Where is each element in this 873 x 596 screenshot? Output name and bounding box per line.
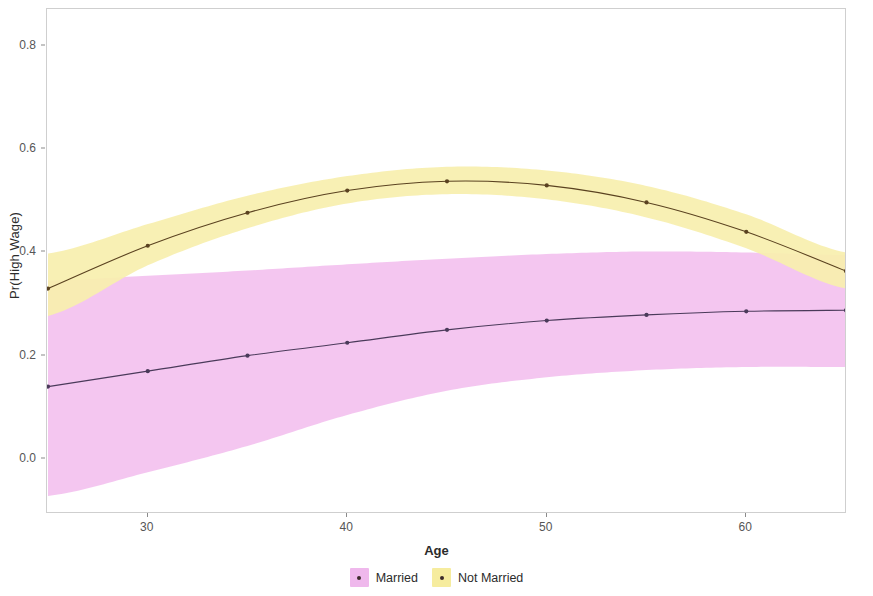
x-tick-label: 30 [140,520,153,534]
chart-figure: Pr(High Wage) 0.00.20.40.60.8 30405060 A… [0,0,873,596]
x-tick-mark [745,513,746,517]
x-tick-mark [147,513,148,517]
legend-item[interactable]: Married [350,568,418,587]
data-point [744,230,748,234]
data-point [245,354,249,358]
y-tick-label: 0.8 [0,38,36,52]
data-point [245,211,249,215]
legend-swatch-icon [432,568,451,587]
data-point [345,341,349,345]
data-point [146,369,150,373]
x-tick-mark [546,513,547,517]
data-point [445,179,449,183]
x-axis-title: Age [0,543,873,558]
legend-item[interactable]: Not Married [432,568,523,587]
y-tick-label: 0.2 [0,348,36,362]
y-tick-label: 0.4 [0,244,36,258]
data-point [744,309,748,313]
confidence-band [48,251,846,496]
y-tick-label: 0.0 [0,451,36,465]
legend-label: Married [376,571,418,585]
data-point [644,313,648,317]
x-tick-label: 50 [539,520,552,534]
y-tick-mark [41,457,45,458]
legend-point-icon [440,576,444,580]
data-point [345,188,349,192]
x-tick-label: 60 [739,520,752,534]
legend-point-icon [357,576,361,580]
legend-swatch-icon [350,568,369,587]
y-tick-label: 0.6 [0,141,36,155]
x-tick-label: 40 [340,520,353,534]
x-tick-mark [346,513,347,517]
data-point [644,200,648,204]
chart-legend: MarriedNot Married [0,568,873,587]
legend-label: Not Married [458,571,523,585]
data-point [445,328,449,332]
plot-area [46,8,846,513]
y-tick-mark [41,45,45,46]
data-point [545,183,549,187]
y-tick-mark [41,354,45,355]
plot-svg [47,9,846,513]
x-axis-title-text: Age [424,543,449,558]
y-tick-mark [41,148,45,149]
data-point [545,318,549,322]
y-tick-mark [41,251,45,252]
data-point [146,244,150,248]
